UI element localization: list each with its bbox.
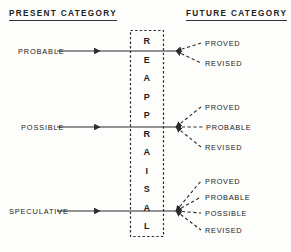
- fanline-possible-revised: [176, 127, 201, 147]
- header-future-category: FUTURE CATEGORY: [186, 9, 287, 21]
- reappraisal-letter: R: [136, 36, 158, 46]
- reappraisal-letter: L: [136, 221, 158, 231]
- reappraisal-letter: R: [136, 129, 158, 139]
- source-label-speculative: SPECULATIVE: [9, 207, 69, 216]
- source-label-probable: PROBABLE: [18, 47, 65, 56]
- outcome-label-possible-probable: PROBABLE: [206, 123, 251, 132]
- reappraisal-letter: A: [136, 203, 158, 213]
- header-present-category: PRESENT CATEGORY: [9, 9, 117, 21]
- reappraisal-letter: I: [136, 166, 158, 176]
- source-label-possible: POSSIBLE: [21, 123, 64, 132]
- reappraisal-letter: P: [136, 110, 158, 120]
- fanline-possible-proved: [176, 107, 201, 127]
- fanline-probable-revised: [176, 51, 201, 63]
- reappraisal-letter: E: [136, 55, 158, 65]
- outcome-label-speculative-possible: POSSIBLE: [205, 209, 247, 218]
- fanline-speculative-possible: [176, 211, 201, 213]
- fanline-speculative-revised: [176, 211, 201, 230]
- outcome-label-probable-revised: REVISED: [205, 59, 242, 68]
- reappraisal-letter: A: [136, 73, 158, 83]
- outcome-label-possible-proved: PROVED: [205, 103, 240, 112]
- outcome-label-speculative-revised: REVISED: [205, 226, 242, 235]
- row-connector-speculative: [57, 181, 201, 230]
- reappraisal-letter: S: [136, 184, 158, 194]
- fanline-probable-proved: [176, 43, 201, 51]
- row-connector-probable: [57, 43, 201, 63]
- fanline-speculative-probable: [176, 197, 201, 211]
- reappraisal-letter: A: [136, 147, 158, 157]
- outcome-label-speculative-probable: PROBABLE: [205, 193, 250, 202]
- fanline-speculative-proved: [176, 181, 201, 211]
- reappraisal-letter: P: [136, 92, 158, 102]
- row-connector-possible: [57, 107, 203, 147]
- outcome-label-speculative-proved: PROVED: [205, 177, 240, 186]
- reappraisal-diagram: PRESENT CATEGORY FUTURE CATEGORY PROBABL…: [0, 0, 291, 252]
- outcome-label-probable-proved: PROVED: [205, 39, 240, 48]
- outcome-label-possible-revised: REVISED: [205, 143, 242, 152]
